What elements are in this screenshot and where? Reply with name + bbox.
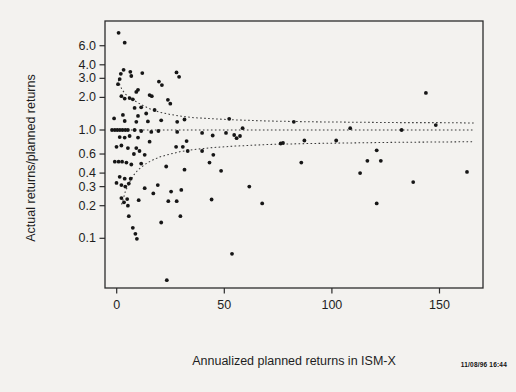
data-point [140, 71, 144, 75]
data-point [131, 226, 135, 230]
data-point [168, 102, 172, 106]
data-point [134, 146, 138, 150]
data-point [113, 160, 117, 164]
data-point [127, 182, 131, 186]
data-point [126, 146, 130, 150]
data-point [123, 97, 127, 101]
data-point [139, 105, 143, 109]
data-point [129, 163, 133, 167]
data-point [238, 134, 242, 138]
data-point [126, 204, 130, 208]
data-point [137, 198, 141, 202]
data-point [174, 145, 178, 149]
data-point [139, 162, 143, 166]
y-tick-label: 1.0 [79, 123, 96, 137]
data-point [118, 175, 122, 179]
data-point [211, 134, 215, 138]
data-point [348, 126, 352, 130]
data-point [136, 114, 140, 118]
data-point [123, 41, 127, 45]
data-point [122, 68, 126, 72]
data-point [366, 159, 370, 163]
data-point [227, 117, 231, 121]
data-point [159, 221, 163, 225]
x-tick-label: 0 [113, 298, 120, 312]
y-tick-label: 0.4 [79, 166, 96, 180]
data-point [156, 183, 160, 187]
y-tick-label: 0.3 [79, 180, 96, 194]
data-point [143, 153, 147, 157]
data-point [120, 144, 124, 148]
data-point [129, 74, 133, 78]
data-point [127, 214, 131, 218]
x-tick-label: 150 [429, 298, 450, 312]
x-axis-title: Annualized planned returns in ISM-X [192, 354, 396, 368]
data-point [411, 180, 415, 184]
data-point [166, 98, 170, 102]
y-tick-label: 3.0 [79, 71, 96, 85]
data-point [129, 177, 133, 181]
data-point [119, 72, 123, 76]
data-point [159, 118, 163, 122]
data-point [134, 232, 138, 236]
data-point [232, 133, 236, 137]
data-point [183, 118, 187, 122]
data-point [135, 237, 139, 241]
data-point [175, 120, 179, 124]
scatter-plot: 0501001506.04.03.02.01.00.60.40.30.20.1 [0, 0, 516, 392]
data-point [210, 198, 214, 202]
plot-frame [105, 21, 483, 288]
data-point [260, 202, 264, 206]
data-point [185, 139, 189, 143]
data-point [123, 136, 127, 140]
data-point [219, 169, 223, 173]
data-point [144, 112, 148, 116]
data-point [126, 128, 130, 132]
x-tick-label: 100 [321, 298, 342, 312]
data-point [160, 83, 164, 87]
data-point [148, 140, 152, 144]
data-point [165, 278, 169, 282]
data-point [120, 94, 124, 98]
data-point [200, 149, 204, 153]
y-tick-label: 0.6 [79, 147, 96, 161]
data-point [133, 106, 137, 110]
data-point [120, 196, 124, 200]
data-point [117, 160, 121, 164]
data-point [133, 128, 137, 132]
data-point [151, 192, 155, 196]
data-point [153, 108, 157, 112]
y-tick-label: 2.0 [79, 90, 96, 104]
data-point [118, 77, 122, 81]
data-point [400, 128, 404, 132]
data-point [150, 94, 154, 98]
data-point [177, 75, 181, 79]
data-point [123, 177, 127, 181]
data-point [139, 129, 143, 133]
data-point [181, 145, 185, 149]
y-tick-label: 4.0 [79, 58, 96, 72]
data-point [131, 97, 135, 101]
data-point [125, 161, 129, 165]
data-point [183, 168, 187, 172]
data-point [125, 197, 129, 201]
data-point [146, 120, 150, 124]
data-point [465, 170, 469, 174]
data-point [120, 160, 124, 164]
data-point [122, 200, 126, 204]
data-point [157, 129, 161, 133]
data-point [123, 185, 127, 189]
confidence-band-upper [118, 80, 474, 123]
data-point [299, 161, 303, 165]
data-point [334, 139, 338, 143]
data-point [424, 91, 428, 95]
data-point [134, 120, 138, 124]
y-tick-label: 6.0 [79, 39, 96, 53]
data-point [358, 171, 362, 175]
data-point [241, 126, 245, 130]
data-point [175, 199, 179, 203]
data-point [112, 117, 116, 121]
data-point [166, 199, 170, 203]
data-point [136, 136, 140, 140]
y-tick-label: 0.1 [79, 231, 96, 245]
